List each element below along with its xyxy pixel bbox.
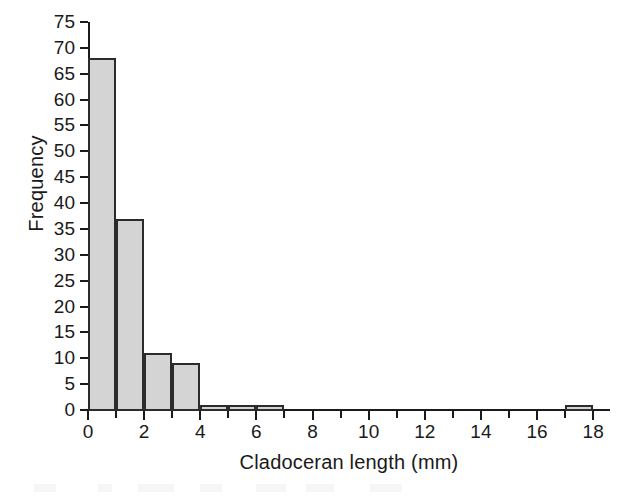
histogram-bar [88,58,116,411]
caption-remnant [34,484,454,492]
histogram-bar [565,405,593,411]
histogram-bar [228,405,256,411]
histogram-bar [144,353,172,411]
histogram-bars [0,0,637,499]
histogram-bar [172,363,200,411]
histogram-bar [200,405,228,411]
histogram-bar [256,405,284,411]
histogram-figure: Frequency 051015202530354045505560657075… [0,0,637,499]
histogram-bar [116,219,144,411]
